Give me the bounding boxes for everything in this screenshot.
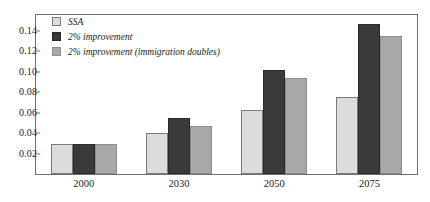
y-axis-tick-mark (35, 153, 40, 154)
bar (241, 110, 263, 174)
bar (336, 97, 358, 174)
bar (168, 118, 190, 174)
legend-item: 2% improvement (immigration doubles) (52, 46, 220, 57)
legend-swatch-icon (52, 17, 61, 26)
bar (51, 144, 73, 174)
y-axis-tick-mark (35, 133, 40, 134)
bar (380, 36, 402, 174)
x-axis-tick-label: 2030 (168, 178, 189, 189)
chart-legend: SSA2% improvement2% improvement (immigra… (52, 16, 220, 57)
y-axis-tick-mark (35, 71, 40, 72)
legend-label: 2% improvement (68, 32, 132, 42)
y-axis-tick-mark (35, 51, 40, 52)
bar-chart: SSA2% improvement2% improvement (immigra… (0, 0, 430, 202)
legend-label: 2% improvement (immigration doubles) (68, 47, 220, 57)
bar (358, 24, 380, 174)
legend-item: SSA (52, 16, 220, 27)
y-axis-tick-mark (35, 30, 40, 31)
legend-swatch-icon (52, 47, 61, 56)
bar (73, 144, 95, 174)
legend-item: 2% improvement (52, 31, 220, 42)
bar (190, 126, 212, 174)
bar (285, 78, 307, 174)
bar (95, 144, 117, 174)
legend-label: SSA (68, 17, 83, 27)
x-axis-tick-label: 2050 (264, 178, 285, 189)
bar (263, 70, 285, 174)
x-axis-tick-label: 2000 (73, 178, 94, 189)
bar (146, 133, 168, 174)
legend-swatch-icon (52, 32, 61, 41)
x-axis-tick-label: 2075 (359, 178, 380, 189)
y-axis-tick-mark (35, 112, 40, 113)
y-axis-tick-mark (35, 92, 40, 93)
